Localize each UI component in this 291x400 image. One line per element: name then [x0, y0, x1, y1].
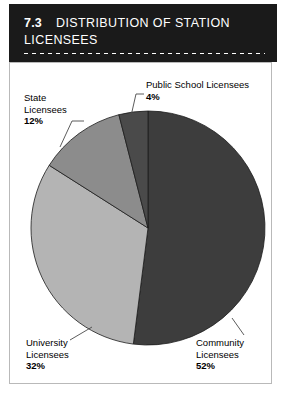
pie-label-state-text-2: Licensees — [24, 104, 67, 116]
pie-label-community-percent: 52% — [196, 360, 244, 372]
pie-label-public-school-percent: 4% — [146, 91, 249, 103]
pie-label-public-school-text: Public School Licensees — [146, 79, 249, 91]
pie-label-university-text-1: University — [26, 337, 69, 349]
pie-label-university-text-2: Licensees — [26, 349, 69, 361]
pie-label-public-school: Public School Licensees 4% — [146, 79, 249, 102]
pie-label-university: University Licensees 32% — [26, 337, 69, 372]
pie-label-state-text-1: State — [24, 92, 67, 104]
pie-slice-community[interactable] — [133, 111, 265, 345]
leader-line-community — [232, 318, 244, 335]
pie-label-community-text-1: Community — [196, 337, 244, 349]
pie-label-community: Community Licensees 52% — [196, 337, 244, 372]
pie-label-community-text-2: Licensees — [196, 349, 244, 361]
pie-label-state: State Licensees 12% — [24, 92, 67, 127]
pie-label-university-percent: 32% — [26, 360, 69, 372]
pie-label-state-percent: 12% — [24, 115, 67, 127]
pie-slice-group — [31, 111, 265, 345]
leader-line-university — [70, 327, 92, 340]
figure-panel: 7.3DISTRIBUTION OF STATION LICENSEES Pub… — [0, 0, 291, 400]
